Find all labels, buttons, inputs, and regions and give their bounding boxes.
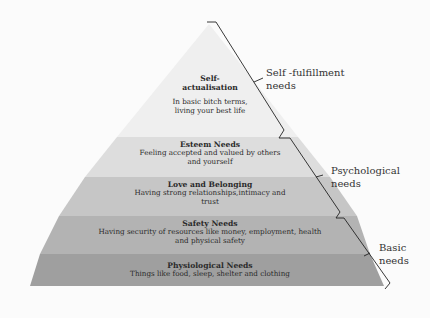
group-label-line: needs <box>379 255 409 268</box>
level-physiological-text: Physiological Needs Things like food, sl… <box>80 261 340 279</box>
level-safety-text: Safety Needs Having security of resource… <box>70 219 350 245</box>
level-description: and yourself <box>110 158 310 167</box>
level-title: actualisation <box>150 83 270 92</box>
group-label-line: Psychological <box>331 165 400 178</box>
level-self-actualisation-text: Self- actualisation In basic bitch terms… <box>150 74 270 116</box>
group-label-line: Self -fulfillment <box>266 67 345 80</box>
group-label-line: needs <box>331 178 400 191</box>
group-label-psychological: Psychological needs <box>331 165 400 190</box>
level-love-belonging-text: Love and Belonging Having strong relatio… <box>100 180 320 206</box>
maslow-pyramid-diagram: Self- actualisation In basic bitch terms… <box>0 0 430 318</box>
level-description: Things like food, sleep, shelter and clo… <box>80 270 340 279</box>
group-label-basic: Basic needs <box>379 242 409 267</box>
level-description: and physical safety <box>70 237 350 246</box>
group-label-self-fulfillment: Self -fulfillment needs <box>266 67 345 92</box>
group-label-line: needs <box>266 80 345 93</box>
level-description: living your best life <box>150 107 270 116</box>
level-description: trust <box>100 198 320 207</box>
level-title: Self- <box>150 74 270 83</box>
group-label-line: Basic <box>379 242 409 255</box>
level-esteem-text: Esteem Needs Feeling accepted and valued… <box>110 140 310 166</box>
